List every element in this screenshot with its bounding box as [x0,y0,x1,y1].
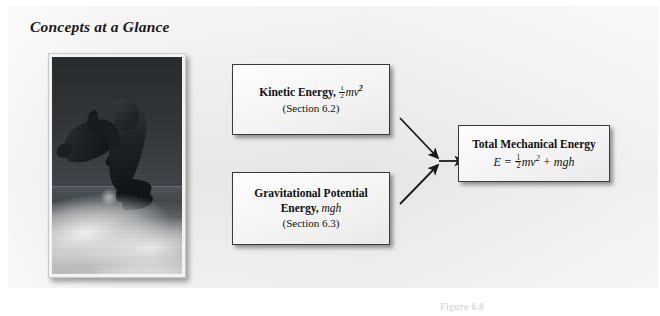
kinetic-energy-title: Kinetic Energy, 12mv2 [259,84,362,100]
gpe-formula-variable: mgh [322,202,342,214]
arrow-kinetic-to-junction [400,118,438,158]
total-mechanical-energy-title: Total Mechanical Energy [472,137,596,151]
gpe-section: (Section 6.3) [283,216,340,230]
figure-caption: Figure 6.8 [440,302,484,312]
total-mechanical-energy-formula: E = 12mv2 + mgh [493,153,574,170]
total-half-fraction: 12 [515,154,521,170]
concept-box-gravitational-potential-energy[interactable]: Gravitational Potential Energy, mgh (Sec… [232,172,390,245]
concept-box-total-mechanical-energy[interactable]: Total Mechanical Energy E = 12mv2 + mgh [458,125,610,182]
kinetic-formula-exponent: 2 [359,84,363,93]
total-frac-numerator: 1 [515,154,521,161]
page-title: Concepts at a Glance [30,18,170,36]
dolphin-photo-frame [48,53,186,278]
total-formula-variable-1: mv [522,155,536,169]
total-formula-exponent: 2 [536,154,540,163]
total-formula-plus: + [543,155,551,169]
kinetic-energy-label: Kinetic Energy, [259,86,336,98]
gpe-title-line1: Gravitational Potential [254,186,367,200]
gpe-title-line2: Energy, mgh [281,201,342,215]
gpe-energy-label: Energy, [281,202,319,214]
total-formula-lead: E = [493,155,511,169]
kinetic-formula-variable: mv [345,86,358,98]
figure-caption-number: Figure 6.8 [440,302,484,312]
total-formula-variable-2: mgh [554,155,575,169]
concept-box-kinetic-energy[interactable]: Kinetic Energy, 12mv2 (Section 6.2) [232,64,390,135]
photo-foam [52,200,182,274]
kinetic-energy-section: (Section 6.2) [283,101,340,115]
total-frac-denominator: 2 [515,161,521,169]
dolphin-photo [52,57,182,274]
arrow-gpe-to-junction [400,165,438,204]
